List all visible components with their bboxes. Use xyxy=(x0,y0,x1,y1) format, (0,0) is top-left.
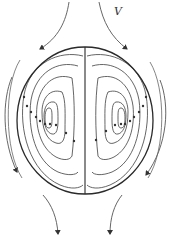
arrow-bottom-right xyxy=(110,195,122,234)
arrow-bottom-left xyxy=(43,195,58,234)
diagram-svg xyxy=(0,0,170,237)
arrow-top-right xyxy=(99,2,127,49)
vortex-diagram: V xyxy=(0,0,170,237)
arrow-left-side xyxy=(5,77,17,172)
arrow-top-left xyxy=(40,2,69,49)
velocity-label: V xyxy=(114,5,122,18)
